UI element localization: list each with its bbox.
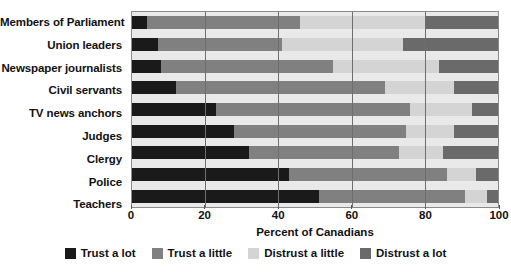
bar-segment — [410, 103, 472, 116]
bar-segment — [487, 190, 498, 203]
bar-segment — [161, 60, 333, 73]
legend-label: Trust a lot — [81, 247, 136, 259]
legend-item: Trust a lot — [65, 247, 136, 259]
bar-segment — [472, 103, 498, 116]
bar-segment — [158, 38, 282, 51]
x-axis-tick-labels: 020406080100 — [131, 209, 499, 225]
bar-segment — [465, 190, 487, 203]
bar-segment — [132, 168, 289, 181]
y-axis-label: Judges — [0, 125, 127, 148]
legend-item: Distrust a little — [248, 247, 344, 259]
bar-segment — [216, 103, 410, 116]
legend-swatch-icon — [152, 248, 163, 259]
x-axis-tick-label: 100 — [489, 209, 508, 221]
stacked-bar-chart: Members of ParliamentUnion leadersNewspa… — [0, 0, 511, 274]
stacked-bar — [132, 81, 498, 94]
bar-segment — [403, 38, 498, 51]
bar-segment — [406, 125, 454, 138]
legend-item: Trust a little — [152, 247, 233, 259]
bar-segment — [443, 146, 498, 159]
y-axis-label: Police — [0, 171, 127, 194]
legend-swatch-icon — [360, 248, 371, 259]
stacked-bar — [132, 16, 498, 29]
x-axis-title: Percent of Canadians — [131, 226, 499, 238]
stacked-bar — [132, 125, 498, 138]
bar-segment — [132, 81, 176, 94]
legend-swatch-icon — [65, 248, 76, 259]
bar-segment — [132, 38, 158, 51]
plot-area — [131, 11, 499, 208]
bar-row — [132, 99, 498, 121]
bar-segment — [282, 38, 403, 51]
bar-segment — [476, 168, 498, 181]
chart-legend: Trust a lotTrust a littleDistrust a litt… — [0, 247, 511, 259]
bar-segment — [333, 60, 439, 73]
y-axis-label: Civil servants — [0, 79, 127, 102]
bar-segment — [176, 81, 385, 94]
y-axis-label: Teachers — [0, 193, 127, 216]
bar-segment — [447, 168, 476, 181]
bar-segment — [289, 168, 446, 181]
stacked-bar — [132, 60, 498, 73]
stacked-bar — [132, 190, 498, 203]
bar-row — [132, 142, 498, 164]
y-axis-label: Clergy — [0, 148, 127, 171]
y-axis-label: Newspaper journalists — [0, 57, 127, 80]
bar-segment — [454, 81, 498, 94]
bar-row — [132, 185, 498, 207]
bar-segment — [385, 81, 455, 94]
y-axis-label: Members of Parliament — [0, 11, 127, 34]
x-axis-tick-label: 20 — [198, 209, 211, 221]
legend-item: Distrust a lot — [360, 247, 446, 259]
bar-segment — [300, 16, 424, 29]
legend-label: Distrust a lot — [376, 247, 446, 259]
stacked-bar — [132, 146, 498, 159]
bar-row — [132, 164, 498, 186]
x-axis-tick-label: 80 — [419, 209, 432, 221]
bar-segment — [249, 146, 399, 159]
bar-row — [132, 34, 498, 56]
legend-label: Trust a little — [168, 247, 233, 259]
bar-row — [132, 55, 498, 77]
stacked-bar — [132, 103, 498, 116]
x-axis-tick-label: 0 — [128, 209, 134, 221]
stacked-bar — [132, 38, 498, 51]
bar-segment — [132, 103, 216, 116]
bar-segment — [132, 190, 319, 203]
bar-segment — [132, 60, 161, 73]
bar-segment — [454, 125, 498, 138]
bar-segment — [132, 125, 234, 138]
bar-segment — [319, 190, 465, 203]
x-axis-tick-label: 60 — [345, 209, 358, 221]
bar-row — [132, 12, 498, 34]
bar-segment — [425, 16, 498, 29]
bar-segment — [132, 16, 147, 29]
x-axis-tick-label: 40 — [272, 209, 285, 221]
y-axis-label: TV news anchors — [0, 102, 127, 125]
stacked-bar — [132, 168, 498, 181]
y-axis-label: Union leaders — [0, 34, 127, 57]
bar-segment — [399, 146, 443, 159]
legend-swatch-icon — [248, 248, 259, 259]
legend-label: Distrust a little — [264, 247, 344, 259]
bar-series-container — [132, 12, 498, 207]
bar-segment — [147, 16, 301, 29]
y-axis-category-labels: Members of ParliamentUnion leadersNewspa… — [0, 11, 127, 208]
bar-row — [132, 120, 498, 142]
bar-segment — [234, 125, 406, 138]
bar-segment — [132, 146, 249, 159]
bar-row — [132, 77, 498, 99]
bar-segment — [439, 60, 498, 73]
